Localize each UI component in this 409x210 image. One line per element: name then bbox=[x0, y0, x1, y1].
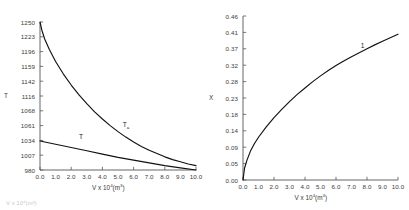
curve-label: Ta bbox=[123, 121, 129, 128]
y-axis-tick-label: 1068 bbox=[0, 107, 35, 114]
x-axis-title-left: V x 104(m3) bbox=[92, 184, 125, 192]
curve-label: 1 bbox=[361, 42, 365, 49]
y-axis-title-left: T bbox=[4, 92, 8, 100]
chart-panel-right: 0.000.050.090.140.180.230.280.320.370.41… bbox=[205, 0, 409, 210]
y-axis-tick-label: 1250 bbox=[0, 19, 35, 26]
y-axis-tick-label: 0.28 bbox=[205, 78, 238, 85]
y-axis-tick-label: 0.41 bbox=[205, 29, 238, 36]
x-axis-tick-label: 10.0 bbox=[187, 173, 205, 180]
figure-container: 9801007103410611068111611421159119612231… bbox=[0, 0, 409, 210]
y-axis-tick-label: 980 bbox=[0, 167, 35, 174]
y-axis-tick-label: 1142 bbox=[0, 78, 35, 85]
figure-caption-partial: V x 10⁴(m³) bbox=[0, 200, 409, 210]
y-axis-tick-label: 0.37 bbox=[205, 45, 238, 52]
y-axis-tick-label: 1159 bbox=[0, 63, 35, 70]
curve-label: T bbox=[79, 133, 83, 140]
y-axis-tick-label: 0.46 bbox=[205, 13, 238, 20]
y-axis-tick-label: 1034 bbox=[0, 137, 35, 144]
data-curve bbox=[40, 141, 196, 170]
y-axis-tick-label: 1061 bbox=[0, 122, 35, 129]
y-axis-tick-label: 0.09 bbox=[205, 144, 238, 151]
y-axis-tick-label: 0.32 bbox=[205, 62, 238, 69]
y-axis-title-right: X bbox=[209, 94, 213, 102]
y-axis-tick-label: 0.05 bbox=[205, 160, 238, 167]
x-axis-tick-label: 10.0 bbox=[389, 183, 407, 190]
data-curve bbox=[40, 22, 196, 166]
chart-panel-left: 9801007103410611068111611421159119612231… bbox=[0, 0, 204, 210]
y-axis-tick-label: 1196 bbox=[0, 48, 35, 55]
y-axis-tick-label: 0.14 bbox=[205, 127, 238, 134]
y-axis-tick-label: 1007 bbox=[0, 152, 35, 159]
data-curve bbox=[243, 34, 398, 180]
y-axis-tick-label: 0.18 bbox=[205, 111, 238, 118]
y-axis-tick-label: 1223 bbox=[0, 33, 35, 40]
